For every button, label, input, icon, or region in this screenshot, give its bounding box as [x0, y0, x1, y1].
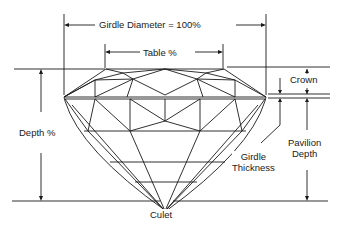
pavilion-depth-label: Pavilion Depth — [288, 137, 321, 159]
girdle-thickness-line2: Thickness — [232, 162, 275, 173]
girdle-diameter-label: Girdle Diameter = 100% — [99, 19, 201, 30]
girdle-thickness-label: Girdle Thickness — [232, 151, 275, 173]
culet-label: Culet — [150, 209, 172, 220]
pavilion-depth-line1: Pavilion — [288, 137, 321, 148]
depth-percent-label: Depth % — [19, 127, 55, 138]
diamond-drawing — [0, 0, 340, 227]
crown-label: Crown — [290, 74, 317, 85]
diamond-proportions-diagram: Girdle Diameter = 100% Table % Crown Dep… — [0, 0, 340, 227]
table-percent-label: Table % — [143, 47, 177, 58]
pavilion-depth-line2: Depth — [288, 148, 321, 159]
girdle-thickness-line1: Girdle — [232, 151, 275, 162]
